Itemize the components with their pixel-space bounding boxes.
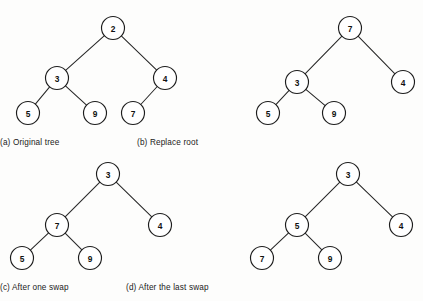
tree-node: 4 bbox=[154, 67, 177, 90]
tree-node: 5 bbox=[286, 214, 309, 237]
node-label: 4 bbox=[163, 74, 168, 84]
node-label: 5 bbox=[20, 254, 25, 264]
tree-node: 3 bbox=[286, 71, 309, 94]
node-label: 3 bbox=[295, 78, 300, 88]
tree-node: 7 bbox=[251, 247, 274, 270]
tree-node: 5 bbox=[17, 102, 40, 125]
node-label: 9 bbox=[328, 254, 333, 264]
tree-node: 3 bbox=[337, 163, 360, 186]
tree-node: 4 bbox=[149, 214, 172, 237]
node-label: 2 bbox=[111, 24, 116, 34]
node-label: 7 bbox=[131, 109, 136, 119]
tree-node: 5 bbox=[257, 102, 280, 125]
tree-node: 3 bbox=[97, 163, 120, 186]
tree-edge bbox=[116, 182, 152, 217]
tree-edge bbox=[305, 36, 342, 74]
node-label: 9 bbox=[332, 109, 337, 119]
tree-panel-d: 35479 bbox=[251, 163, 413, 270]
figure-binary-heap-swaps: 234597734593745935479 (a) Original tree(… bbox=[0, 0, 423, 301]
panel-caption-d: (d) After the last swap bbox=[0, 283, 423, 292]
node-label: 4 bbox=[401, 78, 406, 88]
tree-edge bbox=[358, 36, 395, 74]
tree-edge bbox=[276, 90, 289, 104]
node-label: 5 bbox=[266, 109, 271, 119]
tree-panel-a: 234597 bbox=[17, 17, 177, 125]
tree-diagram-canvas: 234597734593745935479 bbox=[0, 0, 423, 301]
node-label: 7 bbox=[260, 254, 265, 264]
edge-group-d bbox=[270, 182, 392, 250]
tree-edge bbox=[65, 233, 82, 250]
tree-edge bbox=[65, 182, 100, 217]
tree-node: 4 bbox=[392, 71, 415, 94]
node-label: 9 bbox=[93, 109, 98, 119]
tree-panel-b: 73459 bbox=[257, 17, 415, 125]
node-label: 4 bbox=[158, 221, 163, 231]
tree-edge bbox=[306, 89, 325, 105]
tree-node: 7 bbox=[339, 17, 362, 40]
tree-edge bbox=[270, 233, 288, 250]
tree-edge bbox=[305, 182, 340, 217]
node-label: 7 bbox=[348, 24, 353, 34]
node-label: 5 bbox=[295, 221, 300, 231]
tree-node: 4 bbox=[390, 214, 413, 237]
node-label: 5 bbox=[26, 109, 31, 119]
tree-edge bbox=[65, 86, 86, 105]
tree-node: 9 bbox=[79, 247, 102, 270]
tree-edge bbox=[356, 182, 392, 217]
tree-edge bbox=[305, 233, 322, 250]
tree-node: 7 bbox=[122, 102, 145, 125]
node-label: 3 bbox=[106, 170, 111, 180]
tree-panel-c: 37459 bbox=[11, 163, 172, 270]
node-label: 9 bbox=[88, 254, 93, 264]
tree-edge bbox=[66, 36, 105, 71]
tree-node: 9 bbox=[84, 102, 107, 125]
node-label: 7 bbox=[55, 221, 60, 231]
tree-edge bbox=[30, 233, 48, 250]
tree-edge bbox=[35, 87, 49, 104]
edge-group-c bbox=[30, 182, 151, 250]
node-label: 3 bbox=[346, 170, 351, 180]
tree-node: 3 bbox=[46, 67, 69, 90]
tree-node: 5 bbox=[11, 247, 34, 270]
tree-edge bbox=[141, 86, 157, 104]
tree-node: 2 bbox=[102, 17, 125, 40]
node-label: 3 bbox=[55, 74, 60, 84]
panel-caption-b: (b) Replace root bbox=[0, 138, 423, 147]
tree-edge bbox=[121, 36, 156, 70]
node-label: 4 bbox=[399, 221, 404, 231]
tree-node: 9 bbox=[323, 102, 346, 125]
tree-node: 9 bbox=[319, 247, 342, 270]
tree-node: 7 bbox=[46, 214, 69, 237]
